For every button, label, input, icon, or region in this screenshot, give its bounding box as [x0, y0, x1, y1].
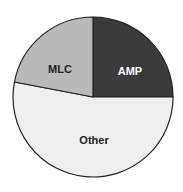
slice-label-mlc: MLC	[48, 63, 72, 75]
pie-slice-amp	[93, 17, 173, 97]
slice-label-other: Other	[79, 134, 109, 146]
pie-chart: AMPOtherMLC	[0, 0, 183, 192]
slice-label-amp: AMP	[118, 65, 142, 77]
